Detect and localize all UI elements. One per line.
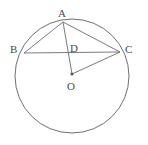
point-label-o: O	[67, 81, 75, 92]
point-label-a: A	[58, 8, 66, 19]
point-label-b: B	[10, 44, 17, 55]
circle-O	[15, 19, 129, 133]
center-dot-o	[70, 72, 73, 75]
segment-oc	[72, 52, 120, 74]
point-label-c: C	[125, 44, 132, 55]
geometry-figure: A B C D O	[0, 0, 148, 145]
geometry-canvas	[0, 0, 148, 145]
point-label-d: D	[70, 43, 78, 54]
